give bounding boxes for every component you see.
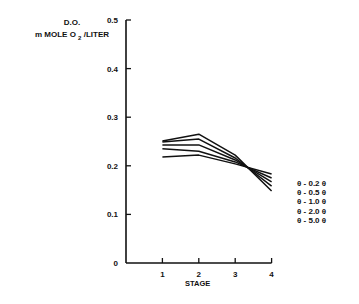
x-tick-label: 3 <box>233 270 238 279</box>
y-tick-label: 0.1 <box>107 210 119 219</box>
legend-item: θ - 0.5 θ <box>297 188 326 197</box>
x-tick-label: 4 <box>269 270 274 279</box>
x-tick-label: 1 <box>160 270 165 279</box>
x-tick-label: 2 <box>197 270 202 279</box>
y-tick-label: 0.4 <box>107 65 119 74</box>
legend-item: θ - 2.0 θ <box>297 207 326 216</box>
y-tick-label: 0.5 <box>107 16 119 25</box>
y-tick-label: 0.3 <box>107 113 119 122</box>
series-line <box>162 134 271 191</box>
line-chart: 00.10.20.30.40.51234 <box>0 0 359 304</box>
legend-item: θ - 1.0 θ <box>297 197 326 206</box>
legend-item: θ - 0.2 θ <box>297 179 326 188</box>
y-tick-label: 0.2 <box>107 162 119 171</box>
series-line <box>162 139 271 186</box>
y-tick-label: 0 <box>114 259 119 268</box>
x-axis-label: STAGE <box>185 279 210 288</box>
legend-item: θ - 5.0 θ <box>297 216 326 225</box>
legend: θ - 0.2 θθ - 0.5 θθ - 1.0 θθ - 2.0 θθ - … <box>297 179 326 225</box>
